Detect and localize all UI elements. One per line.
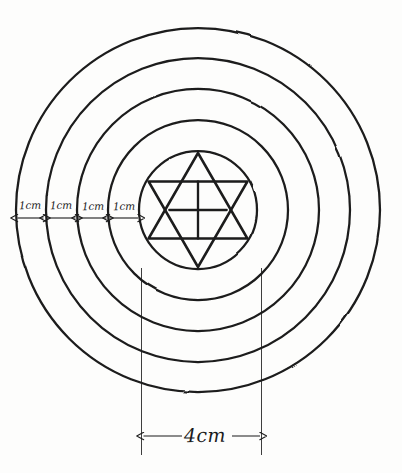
inner-diameter-label: 4cm	[184, 424, 226, 447]
ring-gap-label-4: 1cm	[113, 200, 135, 213]
diagram-canvas: 1cm 1cm 1cm 1cm 4cm	[0, 0, 402, 473]
figure-svg	[0, 0, 402, 473]
ring-gap-label-2: 1cm	[50, 199, 72, 212]
ring-gap-label-3: 1cm	[82, 200, 104, 213]
ring-gap-label-1: 1cm	[19, 199, 41, 212]
